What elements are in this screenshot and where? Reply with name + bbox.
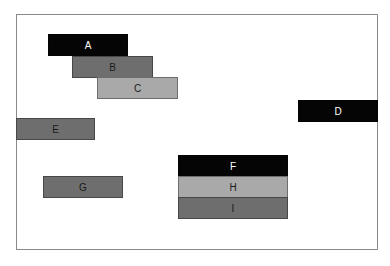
box-i-label: I	[232, 203, 235, 214]
box-i: I	[178, 197, 288, 219]
box-c: C	[97, 77, 178, 99]
box-b: B	[72, 56, 153, 78]
box-f: F	[178, 155, 288, 177]
box-a-label: A	[85, 40, 92, 51]
box-e-label: E	[52, 124, 59, 135]
box-g: G	[43, 176, 123, 198]
box-d: D	[298, 100, 378, 122]
box-g-label: G	[79, 182, 87, 193]
box-h-label: H	[229, 182, 236, 193]
box-d-label: D	[334, 106, 341, 117]
box-a: A	[48, 34, 128, 56]
box-f-label: F	[230, 161, 236, 172]
box-c-label: C	[134, 83, 141, 94]
box-h: H	[178, 176, 288, 198]
box-b-label: B	[109, 62, 116, 73]
box-e: E	[16, 118, 95, 140]
